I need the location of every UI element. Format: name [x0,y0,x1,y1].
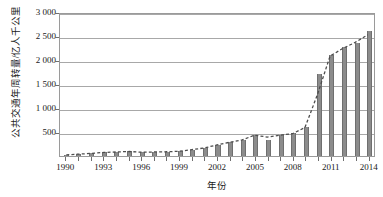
x-axis-tick-mark [356,157,357,161]
x-axis-tick-mark [280,157,281,161]
x-axis-tick-mark [217,157,218,161]
y-axis-tick-label: 2 500 [20,32,56,41]
x-axis-tick-mark [369,157,370,161]
bar [140,152,145,156]
y-axis-tick-label: 500 [20,128,56,137]
x-axis-tick-mark [293,157,294,161]
x-axis-title: 年份 [59,178,375,192]
x-axis-tick-mark [242,157,243,161]
x-axis-tick-label: 2008 [273,162,313,173]
bar [203,148,208,156]
y-axis-tick-label: 1 500 [20,80,56,89]
bar [152,152,157,156]
x-axis-tick-mark [192,157,193,161]
x-axis-tick-label: 1990 [45,162,85,173]
x-axis-tick-mark [230,157,231,161]
x-axis-tick-label: 2014 [349,162,383,173]
bar [64,155,69,156]
bar [102,152,107,156]
x-axis-tick-mark [129,157,130,161]
x-axis-tick-mark [65,157,66,161]
x-axis-tick-mark [204,157,205,161]
x-axis-tick-mark [78,157,79,161]
bar [89,153,94,156]
x-axis-tick-mark [255,157,256,161]
x-axis-tick-mark [166,157,167,161]
y-axis-tick-label: 1 000 [20,104,56,113]
x-axis-tick-mark [154,157,155,161]
bar [317,74,322,156]
x-axis-tick-mark [343,157,344,161]
bar [367,31,372,156]
plot-area [59,13,375,157]
x-axis-tick-label: 1993 [83,162,123,173]
x-axis-tick-labels: 199019931996199920022005200820112014 [59,162,375,176]
bar [215,145,220,156]
x-axis-tick-mark [116,157,117,161]
x-axis-tick-mark [141,157,142,161]
bar [127,151,132,156]
bar [279,135,284,156]
x-axis-tick-mark [268,157,269,161]
x-axis-tick-label: 2005 [235,162,275,173]
bar [304,127,309,156]
bar [178,151,183,156]
bar [228,142,233,156]
bar [329,55,334,156]
bar [355,43,360,156]
x-axis-tick-mark [318,157,319,161]
x-axis-tick-mark [331,157,332,161]
bar [291,133,296,156]
x-axis-tick-mark [179,157,180,161]
x-axis-tick-label: 1999 [159,162,199,173]
x-axis-tick-label: 2011 [311,162,351,173]
bar [253,135,258,156]
bar [190,150,195,156]
bar [165,152,170,156]
chart-figure: 公共交通年周转量/亿人千公里 3 0002 5002 0001 5001 000… [0,0,383,197]
bar [342,47,347,156]
bar-series [60,14,374,156]
bar [76,154,81,156]
x-axis-tick-label: 2002 [197,162,237,173]
x-axis-tick-mark [305,157,306,161]
x-axis-tick-label: 1996 [121,162,161,173]
y-axis-tick-label: 2 000 [20,56,56,65]
x-axis-tick-mark [103,157,104,161]
bar [266,140,271,156]
bar [114,152,119,156]
bar [241,140,246,156]
y-axis-tick-label: 3 000 [20,8,56,17]
x-axis-tick-mark [91,157,92,161]
